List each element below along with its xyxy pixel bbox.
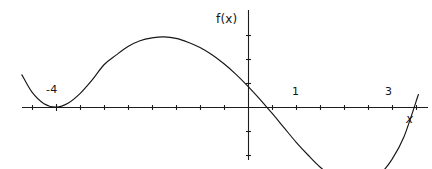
x-axis-group	[22, 104, 428, 111]
root-label-one: 1	[292, 86, 299, 97]
root-label-three: 3	[385, 86, 392, 97]
function-curve	[22, 37, 418, 169]
x-axis-label: x	[406, 113, 413, 125]
root-label-minus-four: -4	[46, 84, 57, 95]
function-name-label: f(x)	[216, 13, 238, 25]
function-graph-figure: f(x) x -4 1 3	[0, 0, 432, 169]
